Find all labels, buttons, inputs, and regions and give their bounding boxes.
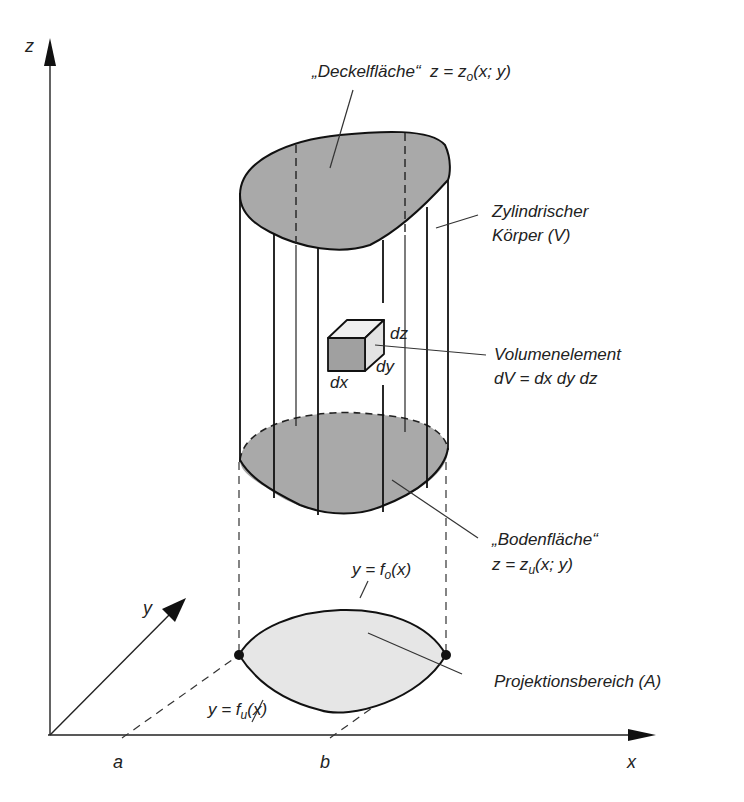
body-label-line2: Körper (V) [492, 226, 570, 246]
cube-dy-label: dy [376, 357, 394, 377]
top-surface [240, 132, 450, 250]
eq-prefix: y = f [208, 700, 241, 719]
y-axis [50, 606, 178, 735]
eq-suffix: (x; y) [535, 555, 573, 574]
eq-suffix: (x) [391, 560, 411, 579]
bottom-surface-equation: z = zu(x; y) [492, 555, 573, 580]
top-surface-name: „Deckelfläche“ [312, 62, 421, 81]
top-surface-equation: z = zo(x; y) [430, 62, 511, 81]
eq-prefix: y = f [352, 560, 385, 579]
volume-element-equation: dV = dx dy dz [494, 369, 597, 389]
leader-bodenflaeche [392, 480, 478, 538]
cylindrical-body-diagram: z y x a b „Deckelfläche“ z = zo(x; y) Zy… [0, 0, 744, 802]
x-mark-a: a [113, 752, 123, 772]
top-surface-label: „Deckelfläche“ z = zo(x; y) [312, 62, 511, 87]
eq-prefix: z = z [492, 555, 528, 574]
cube-front-face [328, 338, 365, 371]
body-label-line1: Zylindrischer [492, 202, 588, 222]
guide-a [122, 655, 239, 738]
x-mark-b: b [320, 752, 330, 772]
right-intersection-point [441, 650, 451, 660]
projection-region-label: Projektionsbereich (A) [494, 672, 661, 692]
bottom-surface [240, 413, 448, 514]
volume-element-label: Volumenelement [494, 345, 621, 365]
upper-boundary-label: y = fo(x) [352, 560, 411, 585]
z-axis-label: z [25, 36, 34, 56]
eq-suffix: (x; y) [473, 62, 511, 81]
z-axis-arrow-icon [44, 38, 56, 66]
leader-volumenelement [375, 345, 486, 355]
bottom-surface-name: „Bodenfläche“ [492, 530, 598, 550]
lower-boundary-label: y = fu(x) [208, 700, 267, 725]
y-axis-label: y [143, 598, 152, 618]
projection-region [234, 610, 451, 713]
x-axis-arrow-icon [628, 729, 656, 741]
cube-dz-label: dz [390, 324, 408, 344]
left-intersection-point [234, 650, 244, 660]
x-axis-label: x [627, 752, 636, 772]
leader-koerper [436, 215, 478, 228]
eq-suffix: (x) [247, 700, 267, 719]
cube-dx-label: dx [330, 373, 348, 393]
eq-prefix: z = z [430, 62, 466, 81]
